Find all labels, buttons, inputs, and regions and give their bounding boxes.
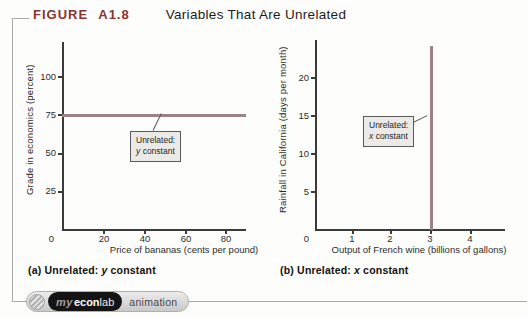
chart-a-ytick-label: 75 bbox=[30, 109, 56, 121]
figure-number-label: FIGURE A1.8 bbox=[33, 7, 130, 22]
chart-a-ytick-50 bbox=[58, 153, 62, 155]
caption-a-variable: y bbox=[101, 264, 107, 276]
chart-a-ytick-25 bbox=[58, 191, 62, 193]
chart-b-x-axis bbox=[315, 229, 505, 231]
chart-a-ytick-100 bbox=[58, 76, 62, 78]
chart-b-ytick-10 bbox=[311, 153, 315, 155]
chart-b-ytick-label: 10 bbox=[289, 148, 309, 160]
caption-a-rest: constant bbox=[111, 264, 156, 276]
myeconlab-animation-badge[interactable]: myeconlab animation bbox=[26, 291, 189, 312]
callout-var: y bbox=[136, 146, 140, 156]
globe-icon bbox=[29, 294, 45, 310]
chart-a-ytick-label: 50 bbox=[30, 147, 56, 159]
chart-a-origin-label: 0 bbox=[40, 233, 54, 245]
data-line-b bbox=[430, 46, 433, 230]
chart-b-callout: Unrelated: x constant bbox=[363, 116, 414, 147]
logo-econ: econ bbox=[74, 296, 100, 308]
chart-b-ytick-label: 20 bbox=[289, 72, 309, 84]
logo-my: my bbox=[56, 296, 73, 308]
callout-var: x bbox=[369, 131, 373, 141]
chart-a-ytick-label: 100 bbox=[30, 71, 56, 83]
data-line-a bbox=[62, 114, 246, 117]
caption-a: (a) Unrelated:yconstant bbox=[28, 264, 156, 276]
logo-lab: lab bbox=[100, 296, 115, 308]
callout-text: constant bbox=[143, 146, 175, 156]
figure-panel: FIGURE A1.8 Variables That Are Unrelated… bbox=[0, 0, 527, 318]
chart-a-x-axis bbox=[62, 229, 246, 231]
chart-a-x-axis-label: Price of bananas (cents per pound) bbox=[110, 244, 258, 255]
caption-a-prefix: (a) Unrelated: bbox=[28, 264, 98, 276]
chart-b-x-axis-label: Output of French wine (billions of gallo… bbox=[332, 244, 507, 255]
caption-b-prefix: (b) Unrelated: bbox=[280, 264, 351, 276]
caption-b-rest: constant bbox=[363, 264, 408, 276]
chart-b-y-axis-label: Rainfall in California (days per month) bbox=[276, 40, 289, 220]
chart-b-ytick-label: 5 bbox=[289, 186, 309, 198]
myeconlab-logo: myeconlab bbox=[48, 292, 122, 311]
callout-text: constant bbox=[376, 131, 408, 141]
animation-label: animation bbox=[129, 296, 177, 308]
chart-a-y-axis bbox=[62, 42, 64, 230]
chart-a-ytick-label: 25 bbox=[30, 185, 56, 197]
figure-header: FIGURE A1.8 Variables That Are Unrelated bbox=[33, 7, 346, 22]
chart-b-ytick-label: 15 bbox=[289, 110, 309, 122]
callout-text: Unrelated: bbox=[369, 120, 408, 130]
chart-b-y-axis bbox=[315, 40, 317, 230]
caption-b: (b) Unrelated:xconstant bbox=[280, 264, 408, 276]
chart-b-ytick-5 bbox=[311, 191, 315, 193]
chart-a-callout: Unrelated: y constant bbox=[130, 131, 181, 162]
chart-b-origin-label: 0 bbox=[295, 233, 309, 245]
caption-b-variable: x bbox=[354, 264, 360, 276]
figure-title: Variables That Are Unrelated bbox=[166, 7, 347, 22]
frame-top-bracket bbox=[12, 18, 29, 19]
chart-b-ytick-20 bbox=[311, 77, 315, 79]
chart-b-ytick-15 bbox=[311, 115, 315, 117]
callout-text: Unrelated: bbox=[136, 135, 175, 145]
frame-left-border bbox=[12, 18, 13, 302]
